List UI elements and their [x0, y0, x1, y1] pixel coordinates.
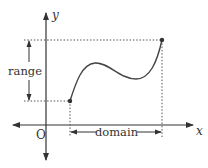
x-axis-label: x [196, 124, 203, 138]
diagram-canvas: y x O range domain [0, 0, 208, 168]
origin-label: O [36, 128, 46, 142]
function-curve [70, 40, 162, 101]
domain-range-diagram: y x O range domain [0, 0, 208, 168]
curve-end-point [160, 38, 164, 42]
y-axis-label: y [51, 8, 59, 22]
range-label: range [8, 64, 42, 78]
curve-start-point [68, 99, 72, 103]
domain-label: domain [95, 125, 139, 139]
